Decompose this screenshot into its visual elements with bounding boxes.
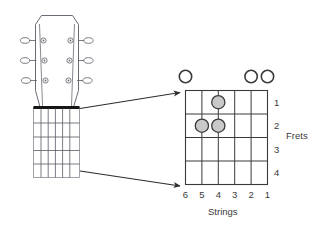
guitar-headstock <box>20 16 93 108</box>
arrow-nut-to-diagram-top <box>80 93 180 109</box>
chord-dot-string5-fret2 <box>195 119 208 132</box>
open-string-marker-2 <box>245 70 257 82</box>
strings-axis-label: Strings <box>208 207 238 217</box>
tuner-left-1 <box>20 38 46 44</box>
tuner-right-2 <box>67 58 93 64</box>
tuner-button-icon <box>83 78 92 84</box>
fretboard-outline <box>34 108 80 178</box>
tuner-left-2 <box>20 58 47 64</box>
fretboard-nut <box>34 106 80 109</box>
fret-label-2: 2 <box>274 121 279 131</box>
tuner-button-icon <box>84 58 93 64</box>
tuner-button-icon <box>20 38 29 44</box>
tuner-button-icon <box>84 38 93 44</box>
tuner-left-3 <box>21 78 48 84</box>
guitar-fretboard <box>34 106 80 178</box>
chord-diagram <box>179 70 273 184</box>
string-label-5: 5 <box>196 190 208 200</box>
tuner-post-center-icon <box>45 80 47 82</box>
tuner-right-3 <box>66 78 92 84</box>
chord-dot-string4-fret2 <box>212 119 225 132</box>
tuner-button-icon <box>20 58 29 64</box>
frets-axis-label: Frets <box>286 131 308 141</box>
open-string-marker-6 <box>179 70 191 82</box>
string-label-6: 6 <box>180 190 192 200</box>
tuner-post-center-icon <box>70 40 72 42</box>
open-string-marker-1 <box>261 70 273 82</box>
string-label-3: 3 <box>229 190 241 200</box>
tuner-button-icon <box>21 78 30 84</box>
string-label-1: 1 <box>262 190 274 200</box>
chord-dot-string3-fret1 <box>212 96 225 109</box>
tuner-post-center-icon <box>69 60 71 62</box>
fret-label-1: 1 <box>274 98 279 108</box>
tuner-post-center-icon <box>68 80 70 82</box>
fret-label-3: 3 <box>274 145 279 155</box>
arrow-fretboard-to-diagram-bottom <box>80 171 180 186</box>
string-label-2: 2 <box>245 190 257 200</box>
callout-arrows <box>80 93 180 187</box>
figure-root: 1 2 3 4 Frets 6 5 4 3 2 1 Strings <box>0 0 320 231</box>
string-label-4: 4 <box>212 190 224 200</box>
tuner-post-center-icon <box>43 40 45 42</box>
fret-label-4: 4 <box>274 168 279 178</box>
tuner-right-1 <box>68 38 93 44</box>
tuner-post-center-icon <box>44 60 46 62</box>
